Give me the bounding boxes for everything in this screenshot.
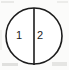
region-label-1: 1 <box>14 30 24 41</box>
divided-circle-diagram: 1 2 <box>0 0 69 70</box>
region-label-2: 2 <box>35 30 45 41</box>
